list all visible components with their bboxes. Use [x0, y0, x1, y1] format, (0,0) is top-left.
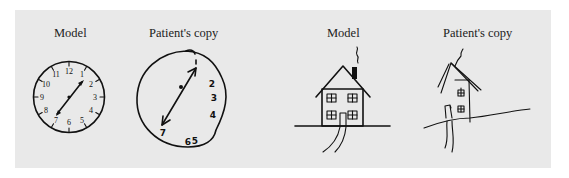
svg-text:4: 4 — [89, 106, 93, 115]
svg-text:7: 7 — [54, 116, 58, 125]
svg-text:12: 12 — [65, 67, 73, 76]
svg-text:2: 2 — [209, 79, 215, 89]
drawings: 12 1 2 3 4 5 6 7 8 9 10 11 2 3 4 6 5 7 — [0, 0, 569, 178]
svg-text:9: 9 — [40, 93, 44, 102]
svg-text:8: 8 — [44, 106, 48, 115]
svg-text:10: 10 — [42, 80, 50, 89]
svg-text:2: 2 — [89, 80, 93, 89]
patient-clock-drawing: 2 3 4 6 5 7 — [137, 50, 226, 147]
svg-text:3: 3 — [93, 93, 97, 102]
svg-text:1: 1 — [80, 70, 84, 79]
svg-text:5: 5 — [192, 136, 198, 146]
svg-text:11: 11 — [52, 70, 60, 79]
svg-text:7: 7 — [160, 128, 166, 138]
patient-house-drawing — [424, 49, 530, 152]
svg-text:5: 5 — [80, 116, 84, 125]
svg-text:4: 4 — [210, 110, 216, 120]
model-house-drawing — [295, 47, 390, 152]
model-clock-drawing: 12 1 2 3 4 5 6 7 8 9 10 11 — [34, 62, 105, 133]
svg-text:6: 6 — [185, 137, 191, 147]
svg-text:6: 6 — [67, 118, 71, 127]
svg-text:3: 3 — [211, 93, 217, 103]
